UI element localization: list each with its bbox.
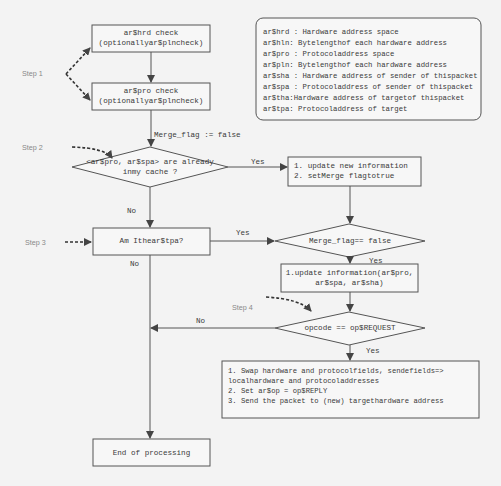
update-info-line1: 1.update information(ar$pro, [281, 268, 418, 278]
cache-no-label: No [127, 206, 136, 216]
merge-yes-label: Yes [369, 256, 383, 266]
reply-action-3: 3. Send the packet to (new) targethardwa… [228, 396, 444, 406]
reply-action-1: 1. Swap hardware and protocolfields, sen… [228, 366, 444, 376]
tpa-yes-label: Yes [236, 228, 250, 238]
update-new-line1: 1. update new information [294, 161, 408, 171]
legend-item: ar$pln: Bytelengthof each hardware addre… [263, 61, 447, 69]
tpa-check-text: Am Ithear$tpa? [93, 236, 210, 246]
end-text: End of processing [93, 448, 210, 458]
legend-item: ar$spa : Protocoladdress of sender of th… [263, 83, 473, 91]
legend-item: ar$hrd : Hardware address space [263, 28, 399, 36]
hrd-check-line1: ar$hrd check [92, 28, 210, 38]
update-info-line2: ar$spa, ar$sha) [281, 278, 418, 288]
opcode-no-label: No [196, 316, 205, 326]
cache-decision-text: <ar$pro, ar$spa> are already inmy cache … [72, 157, 228, 177]
cache-decision-line2: inmy cache ? [72, 167, 228, 177]
update-info-text: 1.update information(ar$pro, ar$spa, ar$… [281, 268, 418, 288]
opcode-yes-label: Yes [366, 346, 380, 356]
hrd-check-line2: (optionallyar$plncheck) [92, 38, 210, 48]
hrd-check-text: ar$hrd check (optionallyar$plncheck) [92, 28, 210, 48]
pro-check-text: ar$pro check (optionallyar$plncheck) [92, 86, 210, 106]
update-new-text: 1. update new information 2. setMerge fl… [294, 161, 408, 181]
merge-decision-text: Merge_flag== false [275, 236, 425, 246]
legend-item: ar$tha:Hardware address of targetof this… [263, 94, 464, 102]
legend-item: ar$pro : Protocoladdress space [263, 50, 394, 58]
reply-action-1-cont: localhardware and protocoladdresses [228, 376, 444, 386]
legend-item: ar$hln: Bytelengthof each hardware addre… [263, 39, 447, 47]
pro-check-line2: (optionallyar$plncheck) [92, 96, 210, 106]
update-new-line2: 2. setMerge flagtotrue [294, 171, 408, 181]
reply-actions-text: 1. Swap hardware and protocolfields, sen… [228, 366, 444, 406]
step-2-label: Step 2 [22, 143, 43, 153]
legend-item: ar$tpa: Protocoladdress of target [263, 105, 408, 113]
merge-init-label: Merge_flag := false [154, 130, 241, 140]
step-1-label: Step 1 [22, 69, 43, 79]
step-3-label: Step 3 [25, 238, 46, 248]
opcode-decision-text: opcode == op$REQUEST [275, 323, 425, 333]
cache-yes-label: Yes [251, 157, 265, 167]
cache-decision-line1: <ar$pro, ar$spa> are already [72, 157, 228, 167]
pro-check-line1: ar$pro check [92, 86, 210, 96]
tpa-no-label: No [130, 259, 139, 269]
legend-item: ar$sha : Hardware address of sender of t… [263, 72, 478, 80]
step-4-label: Step 4 [232, 303, 253, 313]
reply-action-2: 2. Set ar$op = op$REPLY [228, 386, 444, 396]
